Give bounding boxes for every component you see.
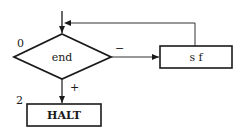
loop-back-arrowhead (64, 20, 71, 26)
decision-index-label: 0 (17, 37, 24, 50)
loop-back-line (66, 23, 195, 46)
halt-index-label: 2 (16, 94, 23, 107)
minus-branch-label: − (115, 42, 124, 55)
flowchart: 0 end − s f + 2 HALT (0, 0, 245, 137)
decision-text: end (52, 51, 73, 64)
halt-text: HALT (47, 109, 82, 122)
plus-branch-label: + (70, 81, 79, 94)
process-text: s f (189, 51, 203, 64)
